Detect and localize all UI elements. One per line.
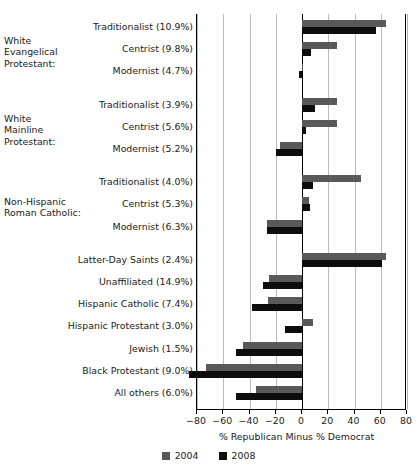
category-label: Hispanic Protestant (3.0%) (3, 321, 193, 331)
bar-2008 (302, 204, 310, 211)
tick--40 (249, 410, 250, 414)
tick-20 (327, 410, 328, 414)
bar-2008 (189, 371, 302, 378)
gridline-60 (381, 14, 382, 409)
legend-label-2004: 2004 (175, 450, 199, 461)
bar-2004 (302, 319, 313, 326)
bar-2004 (302, 175, 361, 182)
legend-item-2004: 2004 (162, 450, 199, 461)
tick-80 (406, 410, 407, 414)
zero-axis-line (302, 14, 303, 409)
legend-swatch-2004 (162, 452, 170, 460)
category-label: Traditionalist (10.9%) (3, 22, 193, 32)
group-heading-line: Mainline (4, 124, 114, 136)
gridline--60 (223, 14, 224, 409)
group-heading-line: White (4, 35, 114, 47)
tick-60 (380, 410, 381, 414)
bar-2008 (276, 149, 302, 156)
tick--20 (275, 410, 276, 414)
bar-2008 (302, 260, 382, 267)
bar-2004 (302, 20, 386, 27)
bar-2008 (302, 182, 313, 189)
legend-label-2008: 2008 (232, 450, 256, 461)
x-axis-title-text: % Republican Minus % Democrat (219, 431, 374, 442)
group-heading-line: Evangelical (4, 46, 114, 58)
category-label: Unaffiliated (14.9%) (3, 277, 193, 287)
gridline-40 (355, 14, 356, 409)
category-label: Latter-Day Saints (2.4%) (3, 255, 193, 265)
plot-area (196, 14, 406, 410)
tick--80 (196, 410, 197, 414)
bar-2004 (302, 64, 303, 71)
bar-2004 (268, 297, 302, 304)
group-heading-line: Protestant: (4, 136, 114, 148)
group-heading-line: Non-Hispanic (4, 196, 114, 208)
tick--60 (222, 410, 223, 414)
category-label: Traditionalist (3.9%) (3, 100, 193, 110)
tick-40 (354, 410, 355, 414)
group-heading: Non-HispanicRoman Catholic: (4, 196, 114, 219)
bar-2004 (280, 142, 302, 149)
bar-2008 (302, 105, 315, 112)
religion-vote-margin-chart: Traditionalist (10.9%)Centrist (9.8%)Mod… (0, 0, 417, 466)
group-heading-line: Roman Catholic: (4, 207, 114, 219)
bar-2008 (263, 282, 302, 289)
bar-2004 (269, 275, 302, 282)
chart-legend: 2004 2008 (0, 450, 417, 461)
category-label: Black Protestant (9.0%) (3, 366, 193, 376)
category-label: Modernist (6.3%) (3, 222, 193, 232)
bar-2008 (252, 304, 302, 311)
group-heading-line: Protestant: (4, 58, 114, 70)
category-label: Jewish (1.5%) (3, 344, 193, 354)
group-heading: WhiteEvangelicalProtestant: (4, 35, 114, 70)
bar-2004 (302, 120, 337, 127)
bar-2004 (243, 342, 302, 349)
bar-2008 (302, 27, 376, 34)
group-heading-line: White (4, 113, 114, 125)
tick-label-80: 80 (386, 415, 417, 426)
bar-2008 (285, 326, 302, 333)
x-axis-title: % Republican Minus % Democrat (0, 431, 417, 442)
bar-2004 (206, 364, 302, 371)
bar-2008 (236, 393, 302, 400)
gridline--80 (197, 14, 198, 409)
gridline-20 (328, 14, 329, 409)
bar-2008 (302, 49, 311, 56)
legend-swatch-2008 (219, 452, 227, 460)
bar-2008 (267, 227, 302, 234)
bar-2008 (302, 127, 306, 134)
gridline-80 (407, 14, 408, 409)
tick-0 (301, 410, 302, 414)
legend-item-2008: 2008 (219, 450, 256, 461)
bar-2008 (299, 71, 302, 78)
bar-2004 (267, 220, 302, 227)
bar-2004 (302, 253, 386, 260)
category-label: Traditionalist (4.0%) (3, 177, 193, 187)
bar-2004 (302, 98, 337, 105)
bar-2008 (236, 349, 302, 356)
bar-2004 (302, 197, 309, 204)
category-label: All others (6.0%) (3, 388, 193, 398)
category-label: Hispanic Catholic (7.4%) (3, 299, 193, 309)
bar-2004 (302, 42, 337, 49)
group-heading: WhiteMainlineProtestant: (4, 113, 114, 148)
bar-2004 (256, 386, 302, 393)
